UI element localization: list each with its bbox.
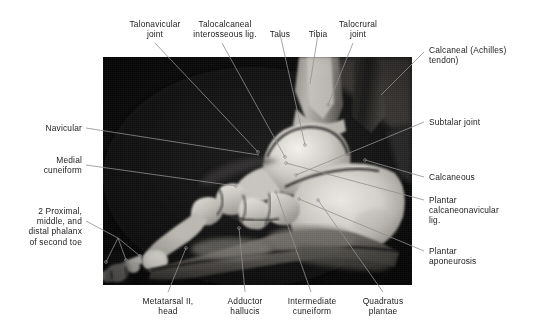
label-talocalcaneal-interosseous-lig: Talocalcaneal interosseous lig. xyxy=(177,19,273,39)
mri-anatomy-render xyxy=(103,57,412,285)
label-plantar-calcaneonavicular-lig: Plantar calcaneonavicular lig. xyxy=(429,195,531,226)
label-metatarsal-ii-head: Metatarsal II, head xyxy=(124,296,212,316)
label-calcaneal-achilles-tendon: Calcaneal (Achilles) tendon) xyxy=(429,45,531,65)
label-adductor-hallucis: Adductor hallucis xyxy=(213,296,277,316)
label-talocrural-joint: Talocrural joint xyxy=(330,19,386,39)
label-talus: Talus xyxy=(261,29,299,39)
label-subtalar-joint: Subtalar joint xyxy=(429,117,529,127)
label-plantar-aponeurosis: Plantar aponeurosis xyxy=(429,246,529,266)
label-phalanges-second-toe: 2 Proximal, middle, and distal phalanx o… xyxy=(4,206,82,247)
label-medial-cuneiform: Medial cuneiform xyxy=(4,155,82,175)
label-calcaneous: Calcaneous xyxy=(429,172,529,182)
mri-image-plate xyxy=(103,57,412,285)
label-quadratus-plantae: Quadratus plantae xyxy=(353,296,413,316)
label-navicular: Navicular xyxy=(4,123,82,133)
anatomy-figure: Talonavicular joint Talocalcaneal intero… xyxy=(0,0,534,333)
label-intermediate-cuneiform: Intermediate cuneiform xyxy=(281,296,343,316)
